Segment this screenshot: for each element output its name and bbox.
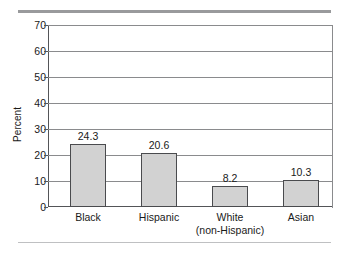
x-category-label-white-line1: White: [217, 211, 244, 223]
bar-asian: [283, 180, 319, 207]
bar-value-asian: 10.3: [279, 166, 323, 178]
bar-value-black: 24.3: [66, 130, 110, 142]
y-tick-label-10: 10: [22, 176, 46, 187]
y-tick-mark-70: [44, 25, 48, 26]
x-category-label-hispanic-line1: Hispanic: [139, 211, 179, 223]
gridline-40: [48, 103, 333, 104]
y-tick-mark-50: [44, 77, 48, 78]
gridline-50: [48, 77, 333, 78]
y-tick-mark-0: [44, 207, 48, 208]
y-tick-mark-20: [44, 155, 48, 156]
plot-frame-top: [48, 25, 333, 26]
y-tick-mark-30: [44, 129, 48, 130]
y-tick-label-70: 70: [22, 20, 46, 31]
y-tick-label-50: 50: [22, 72, 46, 83]
y-tick-label-40: 40: [22, 98, 46, 109]
y-tick-mark-40: [44, 103, 48, 104]
x-category-label-black: Black: [58, 211, 118, 224]
y-tick-mark-10: [44, 181, 48, 182]
bar-chart-figure: Percent 70 60 50 40 30 20 10 0 24.3 20.6…: [0, 0, 349, 254]
x-category-label-asian: Asian: [271, 211, 331, 224]
bar-hispanic: [141, 153, 177, 207]
bar-value-white: 8.2: [208, 172, 252, 184]
x-category-label-asian-line1: Asian: [288, 211, 314, 223]
y-tick-label-30: 30: [22, 124, 46, 135]
x-category-label-white-line2: (non-Hispanic): [185, 224, 275, 237]
bar-black: [70, 144, 106, 207]
y-tick-label-0: 0: [22, 202, 46, 213]
y-tick-mark-60: [44, 51, 48, 52]
x-category-label-hispanic: Hispanic: [127, 211, 191, 224]
y-tick-label-60: 60: [22, 46, 46, 57]
x-category-label-black-line1: Black: [75, 211, 101, 223]
bar-white: [212, 186, 248, 207]
gridline-60: [48, 51, 333, 52]
y-tick-label-20: 20: [22, 150, 46, 161]
x-category-label-white: White (non-Hispanic): [185, 211, 275, 237]
bar-value-hispanic: 20.6: [137, 139, 181, 151]
bottom-divider-rule: [18, 242, 331, 243]
